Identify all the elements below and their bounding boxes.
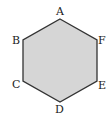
vertex-label-a: A (55, 5, 65, 18)
hexagon-diagram: A B C D E F (0, 0, 109, 117)
vertex-label-c: C (12, 78, 20, 91)
hexagon-shape (23, 19, 97, 102)
vertex-label-b: B (12, 34, 20, 47)
vertex-label-e: E (98, 79, 106, 92)
vertex-label-f: F (98, 34, 106, 47)
vertex-label-d: D (55, 103, 64, 116)
